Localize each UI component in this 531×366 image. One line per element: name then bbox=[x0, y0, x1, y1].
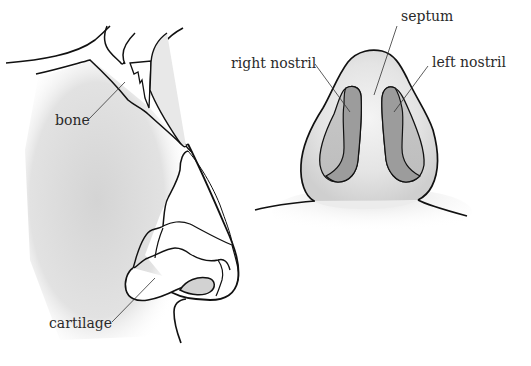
cartilage-label: cartilage bbox=[49, 316, 112, 330]
side-view bbox=[6, 26, 239, 343]
nostril-side-inner bbox=[216, 260, 223, 296]
right-nostril-label: right nostril bbox=[231, 56, 316, 70]
septum-label: septum bbox=[401, 9, 453, 23]
bone-label: bone bbox=[55, 113, 90, 127]
left-nostril-label: left nostril bbox=[432, 55, 506, 69]
orbit-line-1 bbox=[105, 26, 124, 64]
nostril-side bbox=[180, 278, 214, 295]
orbit-line-2 bbox=[123, 33, 135, 64]
brow-line-upper bbox=[6, 26, 110, 63]
alar-cartilage-line bbox=[163, 222, 232, 245]
nose-anatomy-diagram: bone cartilage septum right nostril left… bbox=[0, 0, 531, 366]
front-view bbox=[255, 50, 472, 237]
